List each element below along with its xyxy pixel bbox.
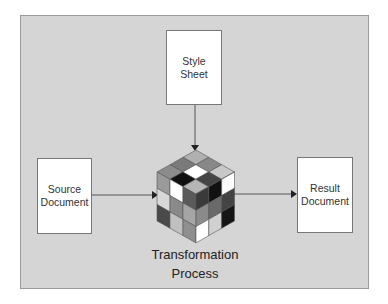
node-result-document-label: Result Document: [301, 182, 349, 208]
node-result-document: Result Document: [297, 157, 353, 233]
node-source-document: Source Document: [37, 158, 92, 234]
node-style-sheet: Style Sheet: [166, 30, 222, 105]
source-line-2: Document: [41, 196, 89, 209]
source-line-1: Source: [41, 183, 89, 196]
arrow-source-to-process: [91, 191, 158, 199]
node-source-document-label: Source Document: [41, 183, 89, 209]
arrow-stylesheet-to-process: [191, 104, 199, 151]
result-line-1: Result: [301, 182, 349, 195]
result-line-2: Document: [301, 195, 349, 208]
arrow-process-to-result: [232, 190, 297, 198]
process-caption: Transformation Process: [140, 245, 250, 283]
process-line-1: Transformation: [140, 245, 250, 264]
style-sheet-line-1: Style: [180, 55, 207, 68]
node-style-sheet-label: Style Sheet: [180, 55, 207, 81]
rubiks-cube-icon: [157, 150, 235, 243]
process-line-2: Process: [140, 264, 250, 283]
style-sheet-line-2: Sheet: [180, 68, 207, 81]
